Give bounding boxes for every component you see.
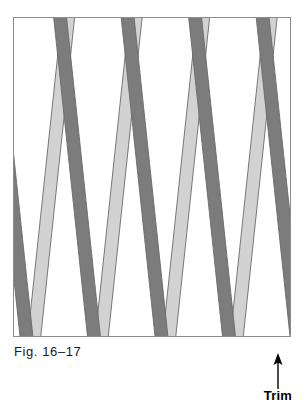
lattice-figure-frame <box>13 17 291 337</box>
trim-label: Trim <box>252 388 304 403</box>
lattice-strips <box>14 18 290 336</box>
figure-caption: Fig. 16–17 <box>14 344 81 359</box>
trim-arrow-up-icon <box>252 352 304 390</box>
cropped-header-text: · · · · · · · <box>22 0 272 3</box>
lattice-diagram <box>14 18 290 336</box>
trim-callout: Trim <box>252 352 304 408</box>
figure-page: · · · · · · · Fig. 16–17 Trim <box>0 0 308 410</box>
